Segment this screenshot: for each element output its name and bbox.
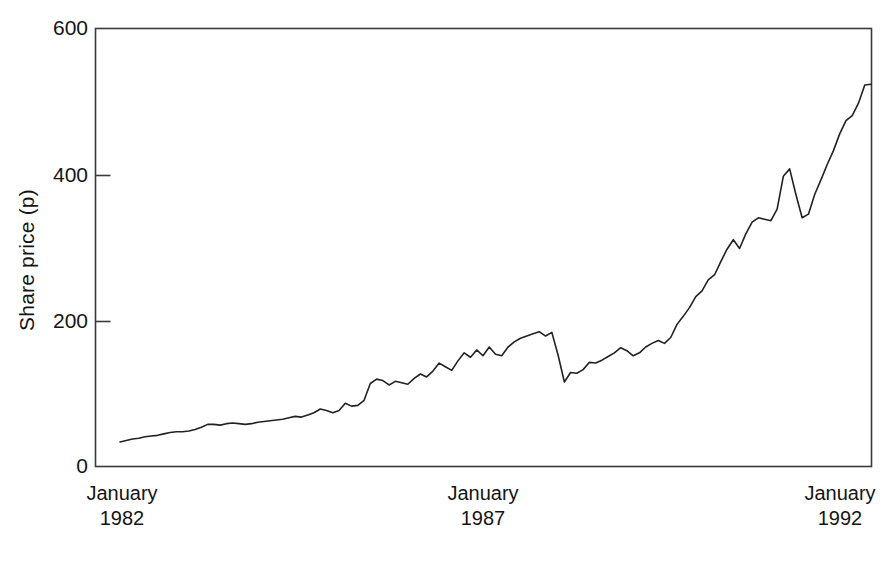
x-tick-label-1992-year: 1992 xyxy=(770,506,886,531)
x-tick-label-1992-month: January xyxy=(770,481,886,506)
plot-frame xyxy=(96,29,872,467)
plot-area xyxy=(0,0,886,561)
share-price-chart: Share price (p) 600 400 200 0 January 19… xyxy=(0,0,886,561)
x-tick-label-1987-year: 1987 xyxy=(413,506,553,531)
x-tick-label-1982-year: 1982 xyxy=(52,506,192,531)
x-tick-label-1987-month: January xyxy=(413,481,553,506)
x-tick-label-1982: January 1982 xyxy=(52,481,192,531)
x-tick-label-1987: January 1987 xyxy=(413,481,553,531)
x-tick-label-1992: January 1992 xyxy=(770,481,886,531)
x-tick-label-1982-month: January xyxy=(52,481,192,506)
